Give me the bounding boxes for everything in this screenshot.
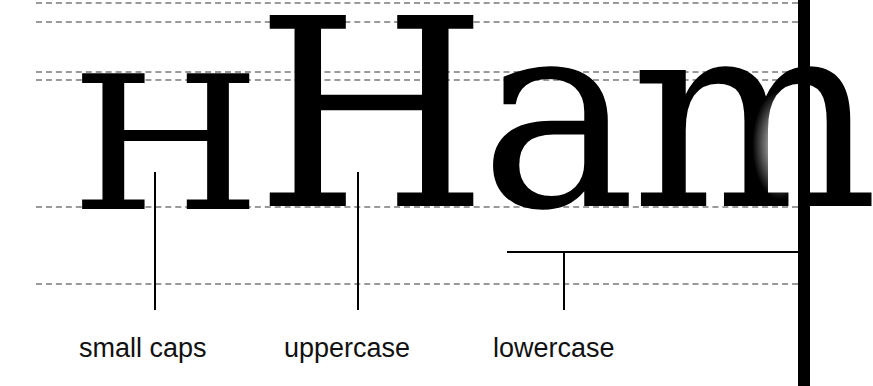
uppercase-label: uppercase — [284, 333, 410, 364]
small-caps-pointer-line — [154, 172, 156, 310]
uppercase-pointer-line — [357, 172, 359, 310]
lowercase-bracket-line — [507, 251, 798, 253]
lowercase-glyphs: am — [480, 0, 873, 247]
lowercase-label: lowercase — [493, 333, 615, 364]
small-caps-label: small caps — [79, 333, 207, 364]
uppercase-glyph: H — [255, 0, 488, 247]
page-sheen — [752, 90, 798, 200]
lowercase-pointer-line — [563, 251, 565, 310]
small-caps-glyph: H — [70, 52, 261, 238]
guide-line-descender — [36, 283, 798, 285]
page-edge-bar — [798, 0, 810, 386]
